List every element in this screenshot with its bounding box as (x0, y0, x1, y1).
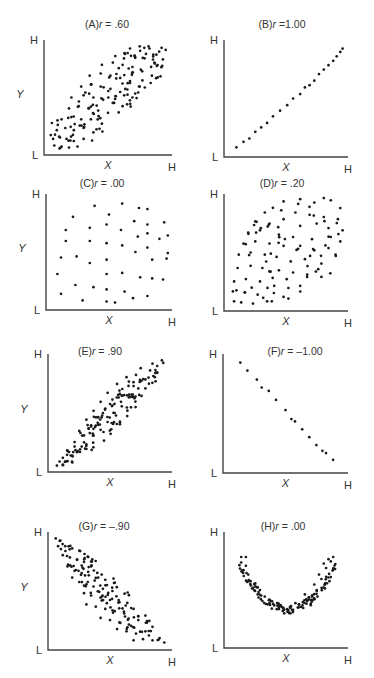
x-axis-label: X (105, 654, 114, 666)
y-low-label: L (32, 149, 38, 161)
axes (48, 532, 172, 650)
data-points (239, 361, 335, 461)
x-high-label: H (168, 478, 176, 490)
x-axis-label: X (103, 159, 112, 171)
y-high-label: H (32, 188, 40, 200)
scatter-figure: (A)r = .60HLHXY(B)r =1.00HLHX(C)r = .00H… (0, 0, 374, 678)
y-low-label: L (212, 642, 218, 654)
x-axis-label: X (281, 315, 290, 327)
y-low-label: L (36, 466, 42, 478)
y-high-label: H (210, 526, 218, 538)
x-axis-label: X (105, 476, 114, 488)
y-low-label: L (34, 304, 40, 316)
axes (224, 194, 348, 311)
x-axis-label: X (281, 161, 290, 173)
panel-title: (A)r = .60 (85, 18, 129, 30)
x-high-label: H (168, 316, 176, 328)
panel-title: (G)r = –.90 (78, 520, 129, 532)
x-high-label: H (168, 161, 176, 173)
axes (46, 194, 172, 310)
x-axis-label: X (281, 477, 290, 489)
scatter-panel-e: (E)r = .90HLHXY (20, 345, 176, 490)
data-points (54, 537, 165, 644)
scatter-panel-a: (A)r = .60HLHXY (16, 18, 176, 173)
x-high-label: H (344, 479, 352, 491)
axes (223, 354, 348, 473)
x-axis-label: X (281, 652, 290, 664)
axes (224, 40, 348, 157)
scatter-panel-h: (H)r = .00HLHX (210, 520, 352, 666)
data-points (56, 202, 169, 304)
y-axis-label: Y (20, 581, 28, 593)
y-low-label: L (212, 151, 218, 163)
x-high-label: H (344, 163, 352, 175)
panel-title: (B)r =1.00 (259, 18, 306, 30)
scatter-panel-b: (B)r =1.00HLHX (210, 18, 352, 175)
data-points (235, 47, 344, 148)
y-high-label: H (34, 348, 42, 360)
scatter-panel-d: (D)r = .20HLHX (210, 177, 352, 329)
y-axis-label: Y (18, 242, 26, 254)
axes (224, 532, 348, 648)
panel-title: (H)r = .00 (261, 520, 306, 532)
scatter-panel-c: (C)r = .00HLHXY (18, 177, 176, 328)
y-high-label: H (30, 34, 38, 46)
scatter-panel-g: (G)r = –.90HLHXY (20, 520, 176, 668)
y-high-label: H (210, 34, 218, 46)
x-axis-label: X (104, 314, 113, 326)
y-low-label: L (36, 644, 42, 656)
data-points (56, 359, 165, 467)
panel-title: (D)r = .20 (260, 177, 305, 189)
data-points (232, 197, 344, 305)
y-axis-label: Y (16, 88, 24, 100)
scatter-panel-f: (F)r = –1.00HLHX (209, 345, 352, 491)
y-high-label: H (210, 188, 218, 200)
panel-title: (C)r = .00 (80, 177, 125, 189)
x-high-label: H (168, 656, 176, 668)
y-low-label: L (212, 305, 218, 317)
panel-title: (E)r = .90 (78, 345, 122, 357)
data-points (49, 45, 167, 150)
data-points (238, 556, 337, 615)
panel-title: (F)r = –1.00 (267, 345, 322, 357)
y-low-label: L (211, 467, 217, 479)
x-high-label: H (344, 317, 352, 329)
y-high-label: H (34, 526, 42, 538)
x-high-label: H (344, 654, 352, 666)
y-high-label: H (209, 348, 217, 360)
y-axis-label: Y (20, 403, 28, 415)
